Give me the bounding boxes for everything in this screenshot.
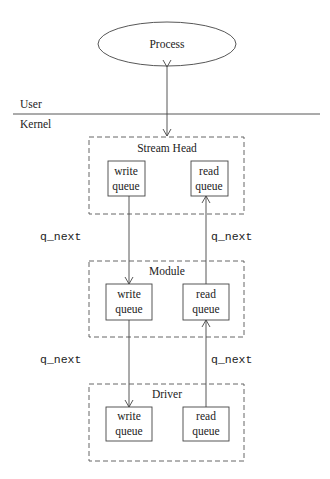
write-queue-label: write <box>114 165 138 177</box>
kernel-label: Kernel <box>20 118 51 130</box>
driver-layer: Driver write queue read queue <box>89 384 244 461</box>
write-queue-label: queue <box>115 425 142 438</box>
read-queue-label: queue <box>192 425 219 438</box>
process-node: Process <box>98 22 236 66</box>
read-queue-label: queue <box>195 180 222 193</box>
q-next-label: q_next <box>211 230 252 243</box>
stream-head-layer: Stream Head write queue read queue <box>89 137 244 214</box>
write-queue-label: queue <box>112 180 139 193</box>
read-queue-label: read <box>199 165 219 177</box>
module-title: Module <box>149 265 185 277</box>
read-queue-label: queue <box>192 303 219 316</box>
module-layer: Module write queue read queue <box>89 261 244 337</box>
user-label: User <box>20 98 42 110</box>
read-queue-label: read <box>196 410 216 422</box>
q-next-label: q_next <box>40 353 81 366</box>
driver-title: Driver <box>152 388 182 400</box>
stream-head-title: Stream Head <box>137 142 197 154</box>
q-next-label: q_next <box>40 230 81 243</box>
write-queue-label: write <box>117 288 141 300</box>
write-queue-label: write <box>117 410 141 422</box>
q-next-label: q_next <box>211 353 252 366</box>
process-label: Process <box>149 38 185 50</box>
write-queue-label: queue <box>115 303 142 316</box>
streams-diagram: Process User Kernel Stream Head write qu… <box>0 0 330 479</box>
read-queue-label: read <box>196 288 216 300</box>
